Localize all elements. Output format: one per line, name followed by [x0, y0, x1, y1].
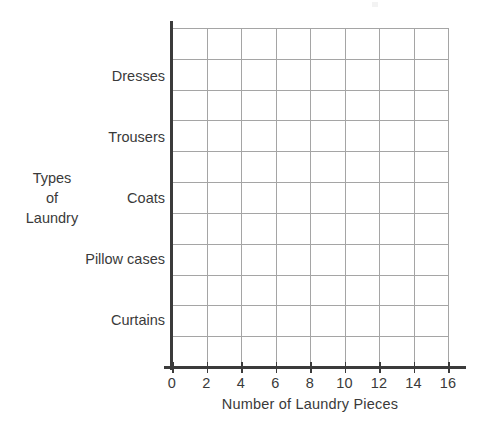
plot-area	[172, 28, 448, 367]
grid-line-vertical	[448, 28, 449, 367]
x-axis-tick-mark	[172, 362, 174, 373]
grid-line-vertical	[207, 28, 208, 367]
category-label-dresses: Dresses	[5, 68, 165, 84]
category-label-pillow-cases: Pillow cases	[5, 251, 165, 267]
x-axis-tick-mark	[276, 362, 278, 373]
grid-line-vertical	[414, 28, 415, 367]
y-axis-title-line-1: Types	[12, 168, 92, 188]
y-axis-title: Types of Laundry	[12, 168, 92, 228]
y-axis-title-line-3: Laundry	[12, 208, 92, 228]
x-axis-tick-mark	[345, 362, 347, 373]
category-label-trousers: Trousers	[5, 129, 165, 145]
x-axis-tick-mark	[414, 362, 416, 373]
scan-artifact	[372, 2, 378, 7]
grid-line-vertical	[276, 28, 277, 367]
x-axis-title: Number of Laundry Pieces	[172, 396, 448, 412]
y-axis-line	[170, 21, 173, 370]
x-axis-tick-mark	[448, 362, 450, 373]
category-label-curtains: Curtains	[5, 312, 165, 328]
grid-line-vertical	[379, 28, 380, 367]
x-axis-tick-mark	[241, 362, 243, 373]
grid-line-vertical	[241, 28, 242, 367]
bar-chart-worksheet: 0246810121416 Dresses Trousers Coats Pil…	[0, 0, 482, 430]
x-axis-tick-label: 16	[428, 375, 468, 391]
y-axis-title-line-2: of	[12, 188, 92, 208]
x-axis-tick-mark	[379, 362, 381, 373]
x-axis-tick-mark	[207, 362, 209, 373]
x-axis-tick-mark	[310, 362, 312, 373]
grid-line-vertical	[310, 28, 311, 367]
x-axis-line	[164, 366, 466, 369]
grid-line-vertical	[345, 28, 346, 367]
